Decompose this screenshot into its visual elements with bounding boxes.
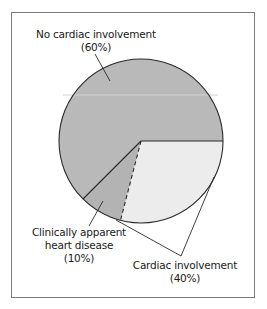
label-clinically-apparent: Clinically apparent heart disease (10%): [26, 226, 132, 265]
label-cardiac-involvement: Cardiac involvement (40%): [132, 259, 238, 285]
label-percent: (40%): [132, 272, 238, 285]
label-text: Clinically apparent: [26, 226, 132, 239]
label-no-cardiac-involvement: No cardiac involvement (60%): [34, 28, 158, 54]
label-percent: (10%): [26, 252, 132, 265]
label-text: No cardiac involvement: [34, 28, 158, 41]
label-percent: (60%): [34, 41, 158, 54]
label-text: Cardiac involvement: [132, 259, 238, 272]
label-text: heart disease: [26, 239, 132, 252]
